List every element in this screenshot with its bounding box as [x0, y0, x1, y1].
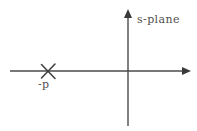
real-axis-arrow-icon	[182, 67, 191, 75]
imaginary-axis-arrow-icon	[124, 9, 132, 18]
pole-label: -p	[38, 78, 50, 91]
s-plane-diagram: s-plane -p	[0, 0, 197, 131]
s-plane-label: s-plane	[137, 13, 180, 26]
